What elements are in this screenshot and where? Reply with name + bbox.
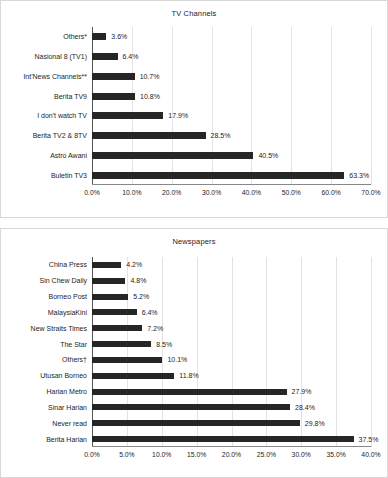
newspapers-value-label: 27.9% xyxy=(292,388,312,395)
newspapers-category-label: Sin Chew Daily xyxy=(40,277,87,284)
tv-channels-bar xyxy=(92,73,135,80)
newspapers-chart-panel: Newspapers China Press4.2%Sin Chew Daily… xyxy=(0,228,388,478)
tv-channels-x-tick-label: 70.0% xyxy=(361,190,380,197)
newspapers-gridline-8 xyxy=(371,257,372,447)
newspapers-x-tick-label: 25.0% xyxy=(257,452,276,459)
newspapers-value-label: 5.2% xyxy=(133,293,149,300)
newspapers-category-label: Harian Metro xyxy=(47,388,87,395)
tv-channels-bar xyxy=(92,53,118,60)
newspapers-x-tick-label: 10.0% xyxy=(152,452,171,459)
tv-channels-category-label: Others* xyxy=(63,33,87,40)
tv-channels-category-label: Buletin TV3 xyxy=(51,172,87,179)
tv-channels-category-label: Berita TV9 xyxy=(54,93,87,100)
newspapers-plot-area: China Press4.2%Sin Chew Daily4.8%Borneo … xyxy=(92,257,371,447)
newspapers-bar xyxy=(92,309,137,315)
tv-channels-x-tick-label: 60.0% xyxy=(322,190,341,197)
newspapers-bar xyxy=(92,373,174,379)
newspapers-category-label: Never read xyxy=(52,420,87,427)
tv-channels-bar xyxy=(92,132,206,139)
newspapers-bar xyxy=(92,262,121,268)
newspapers-x-tick-label: 0.0% xyxy=(84,452,100,459)
newspapers-category-label: The Star xyxy=(60,341,87,348)
tv-channels-category-label: Nasional 8 (TV1) xyxy=(34,53,87,60)
tv-channels-category-label: Berita TV2 & 8TV xyxy=(33,132,87,139)
tv-channels-chart-panel: TV Channels Others*3.6%Nasional 8 (TV1)6… xyxy=(0,0,388,218)
tv-channels-value-label: 10.8% xyxy=(140,93,160,100)
newspapers-category-label: China Press xyxy=(49,261,87,268)
charts-page: TV Channels Others*3.6%Nasional 8 (TV1)6… xyxy=(0,0,388,478)
newspapers-x-tick-label: 5.0% xyxy=(119,452,135,459)
newspapers-bar xyxy=(92,436,354,442)
tv-channels-category-label: Astro Awani xyxy=(50,152,87,159)
tv-channels-x-tick-label: 50.0% xyxy=(282,190,301,197)
newspapers-value-label: 4.2% xyxy=(126,261,142,268)
newspapers-bar xyxy=(92,357,162,363)
tv-channels-value-label: 63.3% xyxy=(349,172,369,179)
newspapers-bar xyxy=(92,404,290,410)
newspapers-x-tick-label: 40.0% xyxy=(361,452,380,459)
tv-channels-value-label: 6.4% xyxy=(123,53,139,60)
newspapers-x-tick-label: 15.0% xyxy=(187,452,206,459)
newspapers-bar xyxy=(92,420,300,426)
tv-channels-x-tick-label: 10.0% xyxy=(122,190,141,197)
tv-channels-x-tick-label: 0.0% xyxy=(84,190,100,197)
newspapers-category-label: Utusan Borneo xyxy=(40,372,87,379)
newspapers-category-label: New Straits Times xyxy=(31,325,87,332)
tv-channels-bar-rows: Others*3.6%Nasional 8 (TV1)6.4%Int'News … xyxy=(92,27,371,185)
tv-channels-bar xyxy=(92,152,253,159)
tv-channels-bar xyxy=(92,33,106,40)
tv-channels-category-label: Int'News Channels** xyxy=(23,73,87,80)
newspapers-value-label: 11.8% xyxy=(179,372,198,379)
newspapers-value-label: 29.8% xyxy=(305,420,325,427)
newspapers-category-label: MalaysiaKini xyxy=(48,309,87,316)
tv-channels-category-label: I don't watch TV xyxy=(37,112,87,119)
tv-channels-value-label: 10.7% xyxy=(140,73,160,80)
newspapers-category-label: Others† xyxy=(62,356,87,363)
tv-channels-bar xyxy=(92,172,344,179)
tv-channels-gridline-7 xyxy=(371,27,372,185)
newspapers-value-label: 7.2% xyxy=(147,325,163,332)
tv-channels-bar xyxy=(92,93,135,100)
newspapers-bar xyxy=(92,341,151,347)
newspapers-bar xyxy=(92,278,125,284)
newspapers-category-label: Sinar Harian xyxy=(48,404,87,411)
tv-channels-x-tick-label: 40.0% xyxy=(242,190,261,197)
newspapers-value-label: 10.1% xyxy=(167,356,187,363)
tv-channels-chart-title: TV Channels xyxy=(1,1,387,18)
tv-channels-value-label: 17.9% xyxy=(168,112,188,119)
newspapers-bar xyxy=(92,294,128,300)
newspapers-chart-title: Newspapers xyxy=(1,229,387,246)
newspapers-x-tick-label: 20.0% xyxy=(222,452,241,459)
newspapers-x-tick-label: 30.0% xyxy=(292,452,311,459)
newspapers-category-label: Borneo Post xyxy=(48,293,87,300)
panel-separator xyxy=(0,218,388,228)
tv-channels-value-label: 28.5% xyxy=(211,132,231,139)
newspapers-category-label: Berita Harian xyxy=(46,436,87,443)
tv-channels-value-label: 3.6% xyxy=(111,33,127,40)
tv-channels-bar xyxy=(92,112,163,119)
newspapers-value-label: 37.5% xyxy=(359,436,379,443)
newspapers-bar xyxy=(92,389,287,395)
newspapers-bar xyxy=(92,325,142,331)
newspapers-value-label: 6.4% xyxy=(142,309,158,316)
newspapers-bar-rows: China Press4.2%Sin Chew Daily4.8%Borneo … xyxy=(92,257,371,447)
tv-channels-x-tick-labels: 0.0%10.0%20.0%30.0%40.0%50.0%60.0%70.0% xyxy=(92,185,371,199)
newspapers-x-tick-label: 35.0% xyxy=(326,452,345,459)
tv-channels-x-tick-label: 30.0% xyxy=(202,190,221,197)
tv-channels-plot-area: Others*3.6%Nasional 8 (TV1)6.4%Int'News … xyxy=(92,27,371,185)
tv-channels-value-label: 40.5% xyxy=(258,152,278,159)
newspapers-value-label: 4.8% xyxy=(130,277,146,284)
tv-channels-x-tick-label: 20.0% xyxy=(162,190,181,197)
newspapers-x-tick-labels: 0.0%5.0%10.0%15.0%20.0%25.0%30.0%35.0%40… xyxy=(92,447,371,461)
newspapers-value-label: 8.5% xyxy=(156,341,172,348)
newspapers-value-label: 28.4% xyxy=(295,404,315,411)
